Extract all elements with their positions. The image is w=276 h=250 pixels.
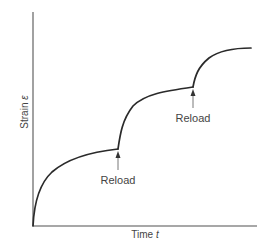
reload-annotation-2: Reload — [176, 89, 211, 124]
y-axis-label-symbol: ε — [19, 95, 30, 100]
x-axis-label-text: Time — [131, 229, 156, 240]
x-axis-label: Time t — [131, 229, 160, 240]
y-axis-label: Strain ε — [19, 95, 30, 129]
strain-curve-segment-1 — [33, 149, 118, 226]
reload-annotation-1: Reload — [101, 151, 136, 186]
reload-label-1: Reload — [101, 174, 136, 186]
reload-label-2: Reload — [176, 112, 211, 124]
arrow-up-icon — [116, 151, 121, 158]
y-axis-label-text: Strain — [19, 100, 30, 129]
x-axis-label-symbol: t — [156, 229, 160, 240]
creep-strain-chart: Reload Reload Time t Strain ε — [0, 0, 276, 250]
arrow-up-icon — [191, 89, 196, 96]
strain-curve-segment-3 — [193, 48, 251, 87]
